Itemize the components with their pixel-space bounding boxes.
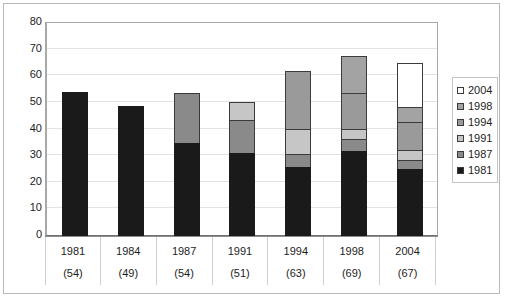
chart-frame: 01020304050607080 1981(54)1984(49)1987(5… — [3, 3, 500, 294]
bar-slot-1998 — [326, 23, 382, 235]
y-axis-tick-50: 50 — [8, 96, 42, 107]
x-axis-cell-1981: 1981(54) — [45, 237, 101, 285]
legend-label: 1991 — [468, 133, 492, 144]
x-axis-year-label: 1994 — [268, 245, 323, 257]
x-axis-year-label: 1998 — [324, 245, 379, 257]
y-axis-tick-30: 30 — [8, 149, 42, 160]
stacked-bar-1981[interactable] — [62, 92, 88, 235]
y-axis-tick-0: 0 — [8, 229, 42, 240]
legend-label: 1987 — [468, 149, 492, 160]
x-axis-total-label: (63) — [268, 267, 323, 279]
x-axis-category-table: 1981(54)1984(49)1987(54)1991(51)1994(63)… — [45, 236, 438, 284]
y-axis-tick-80: 80 — [8, 16, 42, 27]
x-axis-cell-2004: 2004(67) — [380, 237, 436, 285]
bars-layer — [47, 23, 437, 235]
x-axis-total-label: (67) — [380, 267, 435, 279]
stacked-bar-1987[interactable] — [174, 93, 200, 235]
bar-segment-1998-1987[interactable] — [341, 139, 367, 152]
x-axis-total-label: (54) — [46, 267, 100, 279]
stacked-bar-1994[interactable] — [285, 71, 311, 235]
bar-segment-1998-1998[interactable] — [341, 56, 367, 93]
x-axis-total-label: (51) — [213, 267, 268, 279]
bar-segment-1984-1981[interactable] — [118, 106, 144, 236]
legend-label: 2004 — [468, 85, 492, 96]
x-axis-cell-1994: 1994(63) — [268, 237, 324, 285]
bar-segment-1981-1981[interactable] — [62, 92, 88, 236]
bar-slot-1984 — [103, 23, 159, 235]
bar-segment-1994-1981[interactable] — [285, 167, 311, 236]
bar-segment-1994-1994[interactable] — [285, 71, 311, 130]
bar-segment-1987-1987[interactable] — [174, 93, 200, 144]
legend-label: 1981 — [468, 165, 492, 176]
x-axis-total-label: (49) — [101, 267, 156, 279]
legend-item-1987[interactable]: 1987 — [457, 146, 494, 162]
chart-legend: 200419981994199119871981 — [452, 77, 498, 183]
bar-segment-1994-1987[interactable] — [285, 154, 311, 167]
stacked-bar-1998[interactable] — [341, 56, 367, 235]
bar-segment-1987-1981[interactable] — [174, 143, 200, 236]
legend-item-2004[interactable]: 2004 — [457, 82, 494, 98]
legend-swatch-icon-1994 — [457, 119, 464, 126]
legend-label: 1998 — [468, 101, 492, 112]
x-axis-cell-1991: 1991(51) — [213, 237, 269, 285]
bar-segment-2004-1994[interactable] — [397, 122, 423, 151]
x-axis-cell-1984: 1984(49) — [101, 237, 157, 285]
x-axis-cell-1998: 1998(69) — [324, 237, 380, 285]
bar-segment-1998-1981[interactable] — [341, 151, 367, 236]
legend-item-1994[interactable]: 1994 — [457, 114, 494, 130]
bar-segment-2004-2004[interactable] — [397, 63, 423, 108]
bar-slot-1994 — [270, 23, 326, 235]
y-axis-tick-10: 10 — [8, 202, 42, 213]
bar-segment-1998-1994[interactable] — [341, 93, 367, 130]
legend-label: 1994 — [468, 117, 492, 128]
x-axis-total-label: (69) — [324, 267, 379, 279]
bar-segment-1991-1991[interactable] — [229, 102, 255, 121]
legend-swatch-icon-1998 — [457, 103, 464, 110]
legend-swatch-icon-1987 — [457, 151, 464, 158]
bar-slot-2004 — [382, 23, 438, 235]
legend-swatch-icon-1991 — [457, 135, 464, 142]
stacked-bar-2004[interactable] — [397, 63, 423, 235]
stacked-bar-1991[interactable] — [229, 102, 255, 235]
x-axis-cell-1987: 1987(54) — [157, 237, 213, 285]
x-axis-year-label: 1981 — [46, 245, 100, 257]
bar-slot-1991 — [215, 23, 271, 235]
plot-area — [45, 22, 438, 236]
y-axis-tick-20: 20 — [8, 176, 42, 187]
y-axis-tick-40: 40 — [8, 123, 42, 134]
bar-slot-1987 — [159, 23, 215, 235]
legend-item-1981[interactable]: 1981 — [457, 162, 494, 178]
x-axis-year-label: 1987 — [157, 245, 212, 257]
bar-segment-2004-1981[interactable] — [397, 169, 423, 236]
y-axis-tick-60: 60 — [8, 69, 42, 80]
legend-item-1991[interactable]: 1991 — [457, 130, 494, 146]
x-axis-year-label: 2004 — [380, 245, 435, 257]
x-axis-year-label: 1984 — [101, 245, 156, 257]
y-axis-tick-labels: 01020304050607080 — [4, 4, 42, 236]
legend-swatch-icon-1981 — [457, 167, 464, 174]
bar-segment-1994-1991[interactable] — [285, 129, 311, 156]
legend-swatch-icon-2004 — [457, 87, 464, 94]
bar-slot-1981 — [47, 23, 103, 235]
bar-segment-1991-1987[interactable] — [229, 120, 255, 155]
y-axis-tick-70: 70 — [8, 43, 42, 54]
x-axis-year-label: 1991 — [213, 245, 268, 257]
stacked-bar-1984[interactable] — [118, 106, 144, 235]
x-axis-total-label: (54) — [157, 267, 212, 279]
legend-item-1998[interactable]: 1998 — [457, 98, 494, 114]
bar-segment-2004-1998[interactable] — [397, 107, 423, 123]
bar-segment-1991-1981[interactable] — [229, 153, 255, 236]
